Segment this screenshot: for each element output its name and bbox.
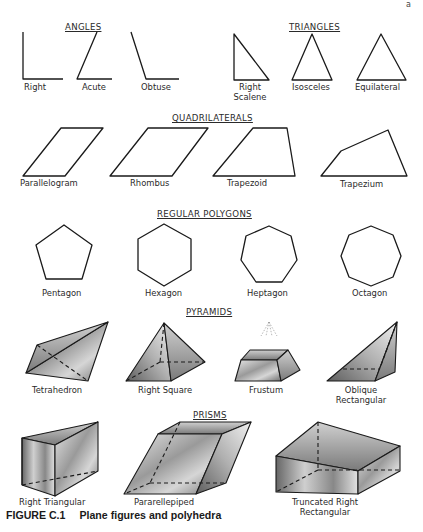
figure-number: FIGURE C.1: [6, 509, 65, 521]
right-triangular-label: Right Triangular: [19, 497, 85, 507]
oblique-rectangular-label-line1: Oblique: [345, 385, 377, 395]
tetrahedron-shape: [26, 322, 108, 381]
oblique-rectangular-label-line2: Rectangular: [336, 395, 386, 405]
parallelepiped-label: Pararellepiped: [134, 497, 194, 507]
pentagon-shape: [36, 225, 92, 279]
angle-acute-shape: [77, 32, 112, 79]
right-triangular-prism-shape: [22, 422, 98, 496]
trapezoid-label: Trapezoid: [227, 178, 267, 188]
figure-drawings: [0, 0, 423, 532]
parallelogram-label: Parallelogram: [20, 178, 78, 188]
angle-acute-label: Acute: [82, 82, 106, 92]
truncated-right-rectangular-label: Truncated Right Rectangular: [284, 497, 366, 517]
triangle-right-scalene-shape: [234, 34, 269, 80]
heptagon-shape: [241, 226, 297, 282]
triangle-right-scalene-label: Right Scalene: [232, 82, 268, 102]
triangle-right-scalene-label-line2: Scalene: [234, 92, 267, 102]
triangle-isosceles-label: Isosceles: [292, 82, 330, 92]
parallelogram-shape: [23, 128, 103, 176]
truncated-right-rectangular-prism-shape: [276, 422, 400, 494]
triangle-equilateral-label: Equilateral: [355, 82, 400, 92]
frustum-shape: [235, 322, 300, 381]
angle-obtuse-shape: [131, 32, 179, 79]
truncated-right-rectangular-label-line2: Rectangular: [300, 507, 350, 517]
figure-caption-text: Plane figures and polyhedra: [79, 509, 221, 521]
truncated-right-rectangular-label-line1: Truncated Right: [292, 497, 358, 507]
figure-caption: FIGURE C.1Plane figures and polyhedra: [6, 509, 221, 521]
triangle-right-scalene-label-line1: Right: [239, 82, 261, 92]
tetrahedron-label: Tetrahedron: [32, 385, 82, 395]
hexagon-label: Hexagon: [145, 288, 182, 298]
pyramids-header: PYRAMIDS: [186, 307, 232, 317]
triangles-header: TRIANGLES: [289, 22, 340, 32]
rhombus-shape: [110, 128, 208, 176]
quadrilaterals-header: QUADRILATERALS: [172, 113, 253, 123]
angle-right-shape: [23, 32, 63, 79]
trapezium-label: Trapezium: [340, 179, 383, 189]
hexagon-shape: [138, 224, 191, 286]
trapezoid-shape: [213, 128, 295, 176]
octagon-label: Octagon: [352, 288, 387, 298]
right-square-label: Right Square: [138, 385, 192, 395]
triangle-equilateral-shape: [357, 34, 406, 80]
trapezium-shape: [321, 130, 407, 176]
parallelepiped-shape: [124, 422, 251, 494]
frustum-label: Frustum: [249, 385, 283, 395]
oblique-rectangular-label: Oblique Rectangular: [332, 385, 390, 405]
oblique-rectangular-pyramid-shape: [327, 322, 397, 381]
pentagon-label: Pentagon: [42, 288, 81, 298]
triangle-isosceles-shape: [292, 34, 332, 80]
regular-polygons-header: REGULAR POLYGONS: [157, 209, 252, 219]
prisms-header: PRISMS: [193, 410, 227, 420]
angles-header: ANGLES: [65, 22, 101, 32]
rhombus-label: Rhombus: [130, 178, 169, 188]
right-square-pyramid-shape: [126, 323, 205, 381]
octagon-shape: [341, 226, 401, 286]
angle-right-label: Right: [24, 82, 46, 92]
heptagon-label: Heptagon: [247, 288, 288, 298]
figure-canvas: a: [0, 0, 423, 532]
angle-obtuse-label: Obtuse: [141, 82, 171, 92]
